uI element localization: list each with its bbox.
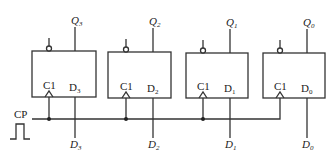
d-pin-label-3: D3	[69, 81, 81, 95]
d2-input-label: D2	[147, 138, 160, 152]
q2-label: Q2	[149, 15, 161, 29]
clock-line	[32, 98, 280, 119]
flipflop-0-box	[263, 53, 325, 98]
flipflop-2-box	[108, 52, 171, 98]
flipflop-1-box	[186, 53, 248, 98]
reset-bubble-0	[278, 48, 283, 53]
reset-bubble-2	[124, 47, 129, 52]
q1-label: Q1	[226, 16, 237, 30]
d-pin-label-2: D2	[147, 82, 159, 96]
reset-bubble-3	[47, 46, 52, 51]
c1-label-0: C1	[274, 80, 287, 92]
flipflop-3-box	[32, 51, 96, 97]
d1-input-label: D1	[224, 138, 236, 152]
clock-label: CP	[14, 108, 27, 120]
c1-label-3: C1	[43, 79, 56, 91]
c1-label-2: C1	[120, 80, 133, 92]
reset-bubble-1	[201, 48, 206, 53]
d-pin-label-1: D1	[224, 82, 236, 96]
q0-label: Q0	[303, 16, 315, 30]
clock-pulse-icon	[10, 124, 30, 139]
d3-input-label: D3	[69, 138, 82, 152]
register-circuit-diagram: CP C1 C1 C1 C1 D3 D2 D1 D0 Q3 Q2 Q1 Q0 D…	[0, 0, 335, 157]
q3-label: Q3	[71, 14, 83, 28]
c1-label-1: C1	[197, 80, 210, 92]
d-pin-label-0: D0	[301, 82, 313, 96]
d0-input-label: D0	[301, 138, 314, 152]
